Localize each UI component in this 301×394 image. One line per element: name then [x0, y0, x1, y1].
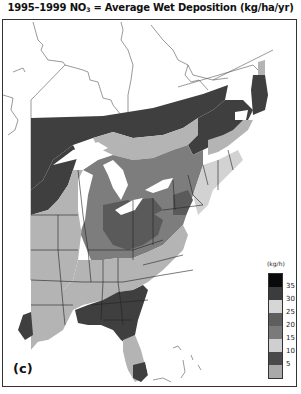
legend-swatch	[269, 287, 282, 300]
legend-tick-label: 5	[286, 360, 290, 368]
legend-tick-label: 25	[286, 308, 295, 316]
legend-swatch	[269, 339, 282, 352]
legend-tick-label: 35	[286, 282, 295, 290]
legend-swatch	[269, 365, 282, 378]
legend-unit: (kg/h)	[267, 260, 285, 267]
legend-swatch	[269, 352, 282, 365]
title-prefix: 1995–1999 NO	[8, 2, 87, 13]
legend-swatch	[269, 274, 282, 287]
legend-swatch	[269, 313, 282, 326]
title-suffix: = Average Wet Deposition (kg/ha/yr)	[90, 2, 293, 13]
legend-tick-label: 20	[286, 321, 295, 329]
legend-swatches	[268, 273, 283, 379]
map-frame: (c)	[2, 19, 297, 387]
deposition-map	[3, 20, 297, 387]
map-title: 1995–1999 NO3 = Average Wet Deposition (…	[0, 2, 301, 13]
panel-label: (c)	[13, 361, 33, 376]
legend-tick-label: 10	[286, 347, 295, 355]
legend-swatch	[269, 300, 282, 313]
legend-tick-label: 15	[286, 334, 295, 342]
legend-tick-label: 30	[286, 295, 295, 303]
legend-swatch	[269, 326, 282, 339]
